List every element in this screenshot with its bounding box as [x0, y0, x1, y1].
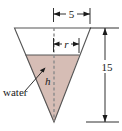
dim-arrow-bottom-height: [103, 115, 108, 122]
dim-arrow-right-top: [84, 11, 91, 16]
diagram-canvas: 5 r 15 water h: [0, 0, 122, 131]
dim-arrow-left-top: [54, 11, 61, 16]
dim-arrow-right-r: [73, 42, 79, 47]
water-callout-label: water: [3, 86, 28, 98]
dim-label-cone-height: 15: [102, 61, 114, 73]
cone-water-diagram: 5 r 15 water h: [0, 0, 122, 131]
water-depth-label: h: [45, 75, 51, 87]
water-region: [26, 55, 80, 122]
dim-label-top-diameter: 5: [69, 8, 75, 20]
dim-label-water-radius: r: [64, 38, 69, 50]
dim-arrow-top-height: [103, 28, 108, 35]
